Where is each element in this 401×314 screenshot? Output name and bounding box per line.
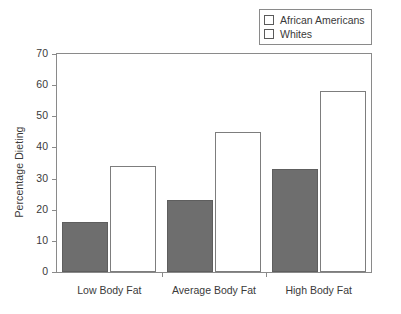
x-axis-category-label: Low Body Fat (57, 284, 162, 297)
y-axis-tick-mark (52, 241, 57, 242)
x-axis-separator-tick (266, 272, 267, 277)
bar-1-1 (215, 132, 261, 272)
y-axis-tick-mark (52, 179, 57, 180)
y-axis-tick-label: 60 (23, 78, 48, 91)
y-axis-tick-label: 40 (23, 140, 48, 153)
x-axis-category-label: Average Body Fat (162, 284, 267, 297)
y-axis-tick-label: 70 (23, 47, 48, 60)
empty-white-swatch-icon (264, 29, 274, 39)
chart-legend: African Americans Whites (259, 9, 372, 45)
bar-0-0 (62, 222, 108, 272)
y-axis-tick-mark (52, 272, 57, 273)
bar-0-2 (272, 169, 318, 272)
legend-item: African Americans (264, 13, 365, 27)
y-axis-tick-label: 0 (23, 265, 48, 278)
y-axis-tick-mark (52, 54, 57, 55)
legend-item: Whites (264, 27, 365, 41)
y-axis-tick-label: 20 (23, 203, 48, 216)
legend-item-label: Whites (280, 28, 312, 40)
bars-layer (57, 54, 371, 272)
bar-0-1 (167, 200, 213, 272)
bar-1-2 (320, 91, 366, 272)
y-axis-tick-mark (52, 147, 57, 148)
bar-1-0 (110, 166, 156, 272)
y-axis-tick-label: 30 (23, 172, 48, 185)
y-axis-tick-label: 10 (23, 234, 48, 247)
plot-area: 010203040506070Low Body FatAverage Body … (56, 53, 372, 273)
legend-item-label: African Americans (280, 14, 365, 26)
x-axis-separator-tick (162, 272, 163, 277)
filled-gray-swatch-icon (264, 15, 274, 25)
y-axis-tick-mark (52, 210, 57, 211)
y-axis-tick-mark (52, 116, 57, 117)
x-axis-category-label: High Body Fat (266, 284, 371, 297)
y-axis-tick-label: 50 (23, 109, 48, 122)
y-axis-tick-mark (52, 85, 57, 86)
